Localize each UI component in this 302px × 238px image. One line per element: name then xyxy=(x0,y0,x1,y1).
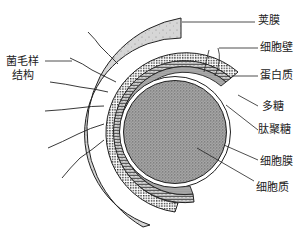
label-protein: 蛋白质 xyxy=(260,70,293,82)
label-cytoplasm: 细胞质 xyxy=(256,182,289,194)
bacterial-cell-structure-diagram xyxy=(0,0,302,238)
label-pili-line2: 结构 xyxy=(6,69,39,83)
label-pili-line1: 菌毛样 xyxy=(6,55,39,69)
label-capsule: 荚膜 xyxy=(258,15,280,27)
label-cell-wall: 细胞壁 xyxy=(260,42,293,54)
cytoplasm xyxy=(124,81,227,184)
label-peptidoglycan: 肽聚糖 xyxy=(258,124,291,136)
label-cell-membrane: 细胞膜 xyxy=(260,156,293,168)
label-polysaccharide: 多糖 xyxy=(262,101,284,113)
label-pili-structure: 菌毛样 结构 xyxy=(6,55,39,83)
pili-structures xyxy=(45,32,118,178)
